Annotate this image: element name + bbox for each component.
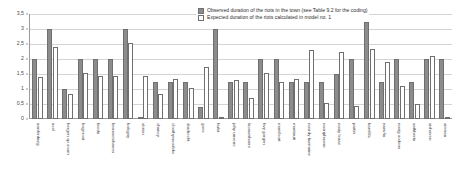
bar-expected <box>68 94 73 120</box>
x-tick-label: hulst <box>216 123 220 132</box>
y-tick-label: 2 <box>21 56 24 61</box>
x-tick-label: brouwershaven <box>111 123 115 153</box>
x-label-cell: brouwershaven <box>105 121 120 187</box>
bar-expected <box>430 56 435 119</box>
bar-expected <box>324 103 329 120</box>
y-tick-mark <box>26 119 28 120</box>
bar-expected <box>173 79 178 120</box>
riot-duration-bar-chart: 00,511,522,533,5 aardenburgaxelbergen op… <box>0 0 460 190</box>
x-label-cell: bolsgny <box>120 121 135 187</box>
x-label-cell: kamfills <box>362 121 377 187</box>
bar-group <box>151 14 166 119</box>
x-tick-label: johy unsene <box>231 123 235 147</box>
legend-label-expected: Expected duration of the riots calculate… <box>207 15 331 20</box>
legend-swatch-observed-icon <box>198 8 204 14</box>
x-label-cell: breda <box>90 121 105 187</box>
y-tick-mark <box>26 59 28 60</box>
bar-group <box>362 14 377 119</box>
x-axis-labels: aardenburgaxelbergen op zoombogerootbred… <box>30 121 452 187</box>
x-tick-label: breda <box>96 123 100 134</box>
bar-observed <box>228 82 233 120</box>
bar-expected <box>445 117 450 119</box>
bar-expected <box>143 76 148 120</box>
x-label-cell: bergen op zoom <box>60 121 75 187</box>
x-tick-label: bergen op zoom <box>65 123 69 155</box>
y-tick-label: 3 <box>21 26 24 31</box>
x-tick-label: montfoort <box>277 123 281 142</box>
bar-expected <box>294 79 299 120</box>
bar-expected <box>113 76 118 120</box>
bar-expected <box>53 47 58 119</box>
legend-item-expected: Expected duration of the riots calculate… <box>198 15 367 21</box>
bar-group <box>377 14 392 119</box>
y-tick-label: 3,5 <box>17 11 24 16</box>
x-label-cell: hvy gorgen <box>256 121 271 187</box>
bar-expected <box>415 104 420 119</box>
bar-group <box>316 14 331 119</box>
x-label-cell: nooriphoonn <box>316 121 331 187</box>
bar-expected <box>370 49 375 120</box>
chart-legend: Observed duration of the riots in the to… <box>196 7 369 22</box>
y-tick-mark <box>26 14 28 15</box>
bar-group <box>90 14 105 119</box>
bar-expected <box>158 94 163 120</box>
bar-expected <box>189 88 194 120</box>
bar-observed <box>153 82 158 120</box>
x-tick-label: nosig oodens <box>397 123 401 149</box>
bars-layer <box>30 14 452 119</box>
bar-observed <box>379 82 384 120</box>
bar-group <box>75 14 90 119</box>
bar-group <box>211 14 226 119</box>
bar-expected <box>354 106 359 120</box>
bar-expected <box>385 62 390 119</box>
x-tick-label: sieman <box>442 123 446 137</box>
y-tick-mark <box>26 104 28 105</box>
legend-swatch-expected-icon <box>198 15 204 21</box>
x-label-cell: sloten <box>136 121 151 187</box>
x-label-cell: montauti <box>286 121 301 187</box>
bar-observed <box>168 82 173 120</box>
x-label-cell: axel <box>45 121 60 187</box>
bar-group <box>226 14 241 119</box>
bar-observed <box>334 74 339 119</box>
x-label-cell: johy unsene <box>226 121 241 187</box>
x-tick-label: goes <box>201 123 205 133</box>
x-tick-label: noordy burmaine <box>307 123 311 156</box>
bar-expected <box>309 50 314 119</box>
bar-observed <box>304 82 309 120</box>
bar-observed <box>289 82 294 120</box>
x-tick-label: sathberta <box>412 123 416 141</box>
x-tick-label: sloten <box>141 123 145 135</box>
bar-observed <box>243 82 248 120</box>
x-tick-label: nosiy leaae <box>337 123 341 145</box>
x-label-cell: cloothywoodeke <box>166 121 181 187</box>
bar-group <box>286 14 301 119</box>
x-label-cell: noordy burmaine <box>301 121 316 187</box>
bar-group <box>301 14 316 119</box>
bar-group <box>105 14 120 119</box>
x-label-cell: nosiy leaae <box>332 121 347 187</box>
bar-group <box>407 14 422 119</box>
bar-group <box>347 14 362 119</box>
bar-observed <box>213 29 218 119</box>
bar-observed <box>409 82 414 120</box>
y-axis: 00,511,522,533,5 <box>0 14 28 120</box>
y-tick-mark <box>26 29 28 30</box>
x-tick-label: bolsgny <box>126 123 130 138</box>
bar-group <box>332 14 347 119</box>
bar-expected <box>204 67 209 120</box>
bar-group <box>181 14 196 119</box>
bar-observed <box>183 82 188 120</box>
x-tick-label: cloothywoodeke <box>171 123 175 155</box>
bar-group <box>60 14 75 119</box>
bar-group <box>241 14 256 119</box>
y-tick-mark <box>26 74 28 75</box>
bar-observed <box>319 82 324 120</box>
legend-item-observed: Observed duration of the riots in the to… <box>198 8 367 14</box>
bar-group <box>196 14 211 119</box>
x-tick-label: nooriphoonn <box>322 123 326 147</box>
x-tick-label: aardenburg <box>35 123 39 145</box>
bar-observed <box>364 22 369 120</box>
bar-expected <box>249 98 254 119</box>
bar-observed <box>32 59 37 119</box>
